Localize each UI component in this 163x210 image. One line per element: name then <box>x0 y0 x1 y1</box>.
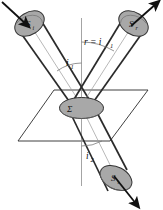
incident-beam-label: S <box>26 19 31 29</box>
refracted-beam-label: S <box>111 173 116 183</box>
reflected-beam-label: S <box>129 19 134 29</box>
angle-of-reflection-label: r = i <box>84 37 102 47</box>
angle-of-refraction-label: i <box>86 151 89 161</box>
surface-label: Σ <box>66 104 73 114</box>
angle-of-incidence-label: i <box>66 58 69 68</box>
diagram-canvas: S i S r S t Σ i 1 r = i 1 i 2 <box>0 0 163 210</box>
angle-of-incidence-label-sub: 1 <box>71 63 74 70</box>
optics-diagram-figure: S i S r S t Σ i 1 r = i 1 i 2 <box>0 0 163 210</box>
angle-of-reflection-label-sub: 1 <box>110 42 113 49</box>
